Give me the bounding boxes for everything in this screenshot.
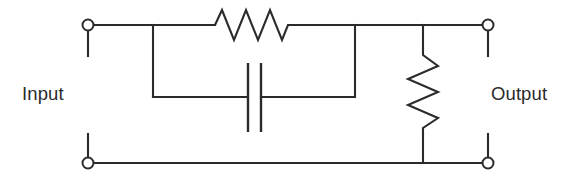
output-bottom-terminal[interactable] xyxy=(483,158,494,169)
output-top-terminal[interactable] xyxy=(483,20,494,31)
circuit-diagram: Input Output xyxy=(0,0,574,182)
output-label: Output xyxy=(491,83,547,105)
shunt-resistor-zigzag xyxy=(408,48,438,135)
input-label: Input xyxy=(22,83,64,105)
circuit-schematic-canvas xyxy=(0,0,574,182)
series-resistor-zigzag xyxy=(215,10,292,40)
input-bottom-terminal[interactable] xyxy=(83,158,94,169)
input-top-terminal[interactable] xyxy=(83,20,94,31)
